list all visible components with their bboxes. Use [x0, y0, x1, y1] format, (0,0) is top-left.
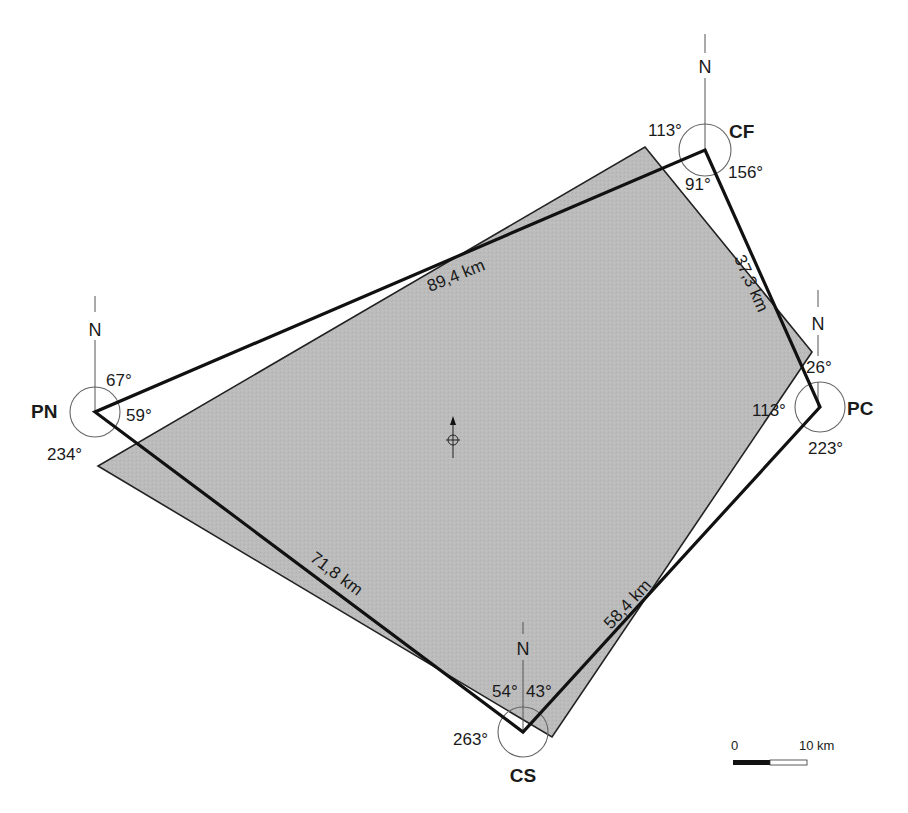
cf-north-label: N	[699, 57, 712, 77]
pn-angle-outer: 234°	[47, 445, 82, 464]
station-pc-label: PC	[847, 398, 874, 419]
image-footprint-polygon	[98, 147, 812, 737]
cf-angle-inner: 91°	[685, 175, 711, 194]
cf-angle-left: 113°	[648, 121, 682, 140]
cs-angle-outer: 263°	[453, 730, 488, 749]
scale-bar: 0 10 km	[731, 738, 834, 765]
survey-network-diagram: N N N N CF PC CS PN 113° 156° 91° 26° 11…	[0, 0, 908, 813]
station-pn-label: PN	[31, 401, 57, 422]
station-cf-label: CF	[729, 121, 754, 142]
pc-angle-top: 26°	[806, 358, 832, 377]
cs-angle-left: 54°	[492, 682, 518, 701]
pn-north-label: N	[89, 320, 102, 340]
station-cs-label: CS	[510, 765, 536, 786]
scale-bar-end-label: 10 km	[799, 738, 834, 753]
cs-angle-right: 43°	[526, 682, 552, 701]
cf-angle-right: 156°	[728, 163, 763, 182]
pn-angle-inner: 59°	[126, 406, 152, 425]
scale-bar-white-segment	[770, 760, 807, 765]
scale-bar-start-label: 0	[731, 738, 738, 753]
pc-angle-inner: 113°	[752, 401, 786, 420]
cs-north-label: N	[517, 639, 530, 659]
scale-bar-black-segment	[733, 760, 770, 765]
pc-north-label: N	[812, 314, 825, 334]
pn-angle-top: 67°	[106, 371, 132, 390]
pc-angle-bottom: 223°	[808, 439, 843, 458]
